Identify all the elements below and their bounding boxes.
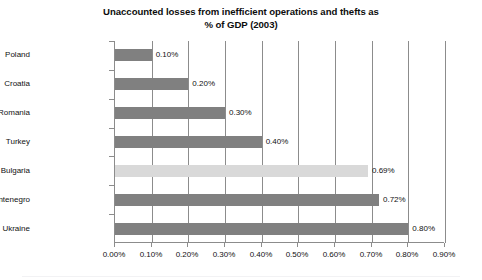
y-axis-tick xyxy=(109,185,114,186)
x-axis-label: 0.90% xyxy=(422,249,466,260)
y-axis-tick xyxy=(109,70,114,71)
category-label-romania: Romania xyxy=(0,107,30,119)
category-label-serbia-montenegro: Serbia & Montenegro xyxy=(0,194,30,206)
category-label-ukraine: Ukraine xyxy=(0,223,30,235)
bar-value-label: 0.40% xyxy=(266,133,289,151)
y-axis-tick xyxy=(109,128,114,129)
category-label-poland: Poland xyxy=(0,49,30,61)
y-axis-tick xyxy=(109,41,114,42)
bar-row: 0.69% xyxy=(115,156,445,185)
x-axis-tick xyxy=(151,243,152,247)
bar-serbia-montenegro xyxy=(115,194,379,206)
bar-row: 0.80% xyxy=(115,214,445,243)
bar-row: 0.30% xyxy=(115,99,445,128)
bar-value-label: 0.72% xyxy=(383,191,406,209)
bar-value-label: 0.80% xyxy=(412,220,435,238)
bar-value-label: 0.69% xyxy=(372,162,395,180)
category-label-croatia: Croatia xyxy=(0,78,30,90)
category-label-bulgaria: Bulgaria xyxy=(0,165,30,177)
bar-row: 0.72% xyxy=(115,185,445,214)
bar-value-label: 0.10% xyxy=(156,46,179,64)
gridline xyxy=(445,41,446,243)
bar-croatia xyxy=(115,78,188,90)
plot-area: 0.10%0.20%0.30%0.40%0.69%0.72%0.80% xyxy=(114,41,444,243)
bar-row: 0.40% xyxy=(115,128,445,157)
bar-value-label: 0.20% xyxy=(192,75,215,93)
x-axis-tick xyxy=(261,243,262,247)
x-axis-tick xyxy=(407,243,408,247)
chart-title: Unaccounted losses from inefficient oper… xyxy=(0,5,482,31)
bottom-divider xyxy=(22,276,460,277)
bar-chart: Unaccounted losses from inefficient oper… xyxy=(0,0,482,280)
bar-romania xyxy=(115,107,225,119)
x-axis-tick xyxy=(297,243,298,247)
y-axis-tick xyxy=(109,156,114,157)
bar-value-label: 0.30% xyxy=(229,104,252,122)
bar-ukraine xyxy=(115,223,408,235)
x-axis-tick xyxy=(444,243,445,247)
bar-row: 0.10% xyxy=(115,41,445,70)
y-axis-tick xyxy=(109,214,114,215)
x-axis-tick xyxy=(224,243,225,247)
x-axis-tick xyxy=(187,243,188,247)
bar-bulgaria xyxy=(115,165,368,177)
y-axis-tick xyxy=(109,99,114,100)
x-axis-tick xyxy=(334,243,335,247)
bar-turkey xyxy=(115,136,262,148)
category-label-turkey: Turkey xyxy=(0,136,30,148)
x-axis-tick xyxy=(114,243,115,247)
bar-poland xyxy=(115,49,152,61)
x-axis-tick xyxy=(371,243,372,247)
bar-row: 0.20% xyxy=(115,70,445,99)
